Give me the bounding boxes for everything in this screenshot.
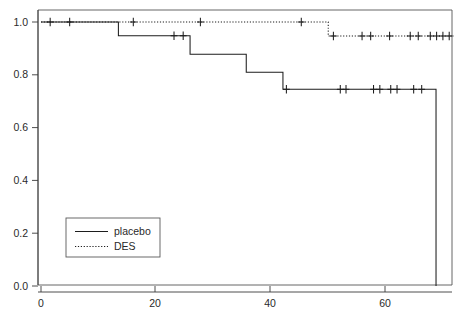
y-tick-marks bbox=[32, 22, 38, 286]
x-axis: 0 20 40 60 bbox=[38, 286, 452, 309]
censor-marks-placebo bbox=[47, 18, 425, 94]
plot-area: 1.0 0.8 0.6 0.4 0.2 0.0 0 20 40 60 bbox=[0, 0, 471, 320]
kaplan-meier-figure: 1.0 0.8 0.6 0.4 0.2 0.0 0 20 40 60 bbox=[0, 0, 471, 320]
y-tick-label-1: 1.0 bbox=[13, 16, 28, 28]
legend-label-placebo: placebo bbox=[114, 225, 151, 237]
x-tick-labels: 0 20 40 60 bbox=[38, 297, 391, 309]
x-tick-label-2: 20 bbox=[149, 297, 161, 309]
series-des bbox=[41, 18, 454, 40]
y-tick-label-2: 0.8 bbox=[13, 68, 28, 80]
x-tick-marks bbox=[41, 286, 385, 292]
x-tick-label-1: 0 bbox=[38, 297, 44, 309]
legend[interactable]: placebo DES bbox=[66, 218, 160, 257]
x-tick-label-3: 40 bbox=[264, 297, 276, 309]
censor-marks-des bbox=[130, 18, 453, 40]
y-tick-label-4: 0.4 bbox=[13, 174, 28, 186]
y-tick-label-5: 0.2 bbox=[13, 227, 28, 239]
curve-des bbox=[41, 22, 454, 36]
x-tick-label-4: 60 bbox=[379, 297, 391, 309]
y-tick-labels: 1.0 0.8 0.6 0.4 0.2 0.0 bbox=[13, 16, 28, 292]
y-tick-label-3: 0.6 bbox=[13, 121, 28, 133]
y-tick-label-6: 0.0 bbox=[13, 280, 28, 292]
legend-box bbox=[66, 218, 160, 257]
y-axis: 1.0 0.8 0.6 0.4 0.2 0.0 bbox=[13, 10, 38, 292]
legend-label-des: DES bbox=[114, 240, 136, 252]
